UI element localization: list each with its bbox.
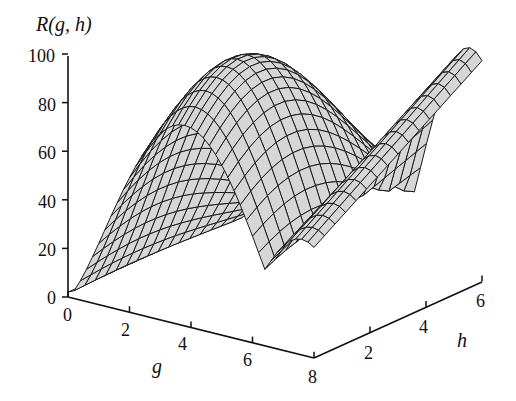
z-tick-0: 0 — [47, 289, 56, 307]
h-tick-4: 4 — [419, 318, 428, 336]
g-tick-6: 6 — [243, 351, 252, 369]
g-tick-2: 2 — [121, 321, 130, 339]
surface-plot — [0, 0, 516, 401]
g-tick-8: 8 — [308, 368, 317, 386]
z-tick-20: 20 — [38, 241, 56, 259]
g-tick-0: 0 — [63, 306, 72, 324]
z-tick-80: 80 — [38, 96, 56, 114]
surface-mesh — [68, 48, 482, 292]
g-tick-4: 4 — [178, 335, 187, 353]
z-tick-100: 100 — [28, 47, 55, 65]
h-tick-2: 2 — [364, 344, 373, 362]
g-axis-title: g — [152, 356, 162, 376]
g-axis — [68, 297, 314, 358]
h-tick-6: 6 — [476, 292, 485, 310]
z-tick-60: 60 — [38, 144, 56, 162]
z-tick-40: 40 — [38, 193, 56, 211]
h-axis-title: h — [457, 330, 467, 350]
z-axis-title: R(g, h) — [36, 14, 92, 34]
